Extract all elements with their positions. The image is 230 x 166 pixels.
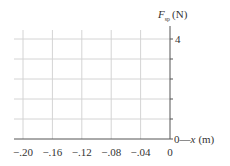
y-axis-subscript: sp bbox=[165, 16, 170, 22]
x-tick-label: −.16 bbox=[42, 146, 62, 158]
x-tick-labels: −.20−.16−.12−.08−.040 bbox=[13, 146, 173, 158]
y-axis-unit: (N) bbox=[172, 8, 188, 21]
x-axis-symbol: x bbox=[190, 133, 196, 145]
y-tick-label-top: 4 bbox=[175, 33, 181, 45]
y-axis-title: Fsp(N) bbox=[157, 8, 188, 22]
spring-force-chart: −.20−.16−.12−.08−.040 Fsp(N) 4 0—x(m) bbox=[0, 0, 230, 166]
x-tick-label: −.04 bbox=[131, 146, 151, 158]
x-tick-label: 0 bbox=[167, 146, 173, 158]
x-axis-title: 0—x(m) bbox=[174, 133, 215, 146]
grid-lines bbox=[14, 30, 170, 139]
x-tick-label: −.08 bbox=[101, 146, 121, 158]
x-tick-label: −.20 bbox=[13, 146, 33, 158]
x-axis-unit: (m) bbox=[198, 133, 214, 146]
x-tick-label: −.12 bbox=[72, 146, 92, 158]
x-axis-zero-prefix: 0— bbox=[174, 133, 192, 145]
axes bbox=[14, 26, 173, 139]
